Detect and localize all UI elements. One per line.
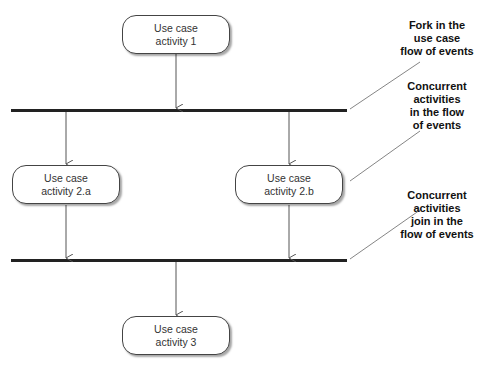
fork-note: Fork in the use case flow of events: [382, 19, 492, 58]
note-line: in the flow: [382, 106, 492, 119]
note-line: use case: [382, 32, 492, 45]
activity-node-1: Use case activity 1: [122, 15, 230, 54]
note-line: activities: [382, 202, 492, 215]
note-line: join in the: [382, 215, 492, 228]
node-label-line2: activity 2.b: [264, 185, 314, 198]
note-line: of events: [382, 119, 492, 132]
join-note: Concurrent activities join in the flow o…: [382, 189, 492, 241]
fork-bar: [11, 109, 347, 112]
concurrent-note: Concurrent activities in the flow of eve…: [382, 80, 492, 132]
activity-node-2b: Use case activity 2.b: [235, 165, 343, 204]
note-line: Fork in the: [382, 19, 492, 32]
node-label-line1: Use case: [267, 172, 311, 185]
concurrent-note-leader: [350, 131, 420, 181]
note-line: Concurrent: [382, 189, 492, 202]
node-label-line1: Use case: [44, 172, 88, 185]
note-line: flow of events: [382, 228, 492, 241]
note-line: flow of events: [382, 45, 492, 58]
node-label-line1: Use case: [154, 323, 198, 336]
activity-node-2a: Use case activity 2.a: [12, 165, 120, 204]
node-label-line2: activity 2.a: [41, 185, 91, 198]
activity-node-3: Use case activity 3: [122, 316, 230, 355]
note-line: Concurrent: [382, 80, 492, 93]
node-label-line1: Use case: [154, 22, 198, 35]
join-bar: [11, 259, 347, 262]
note-line: activities: [382, 93, 492, 106]
node-label-line2: activity 1: [156, 35, 197, 48]
node-label-line2: activity 3: [156, 336, 197, 349]
